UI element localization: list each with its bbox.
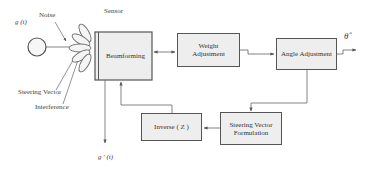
- beamforming-label: Beamforming: [106, 52, 145, 60]
- weight-adjustment-block: Weight Adjustment: [177, 33, 240, 67]
- angle-adjustment-block: Angle Adjustment: [276, 38, 337, 70]
- noise-arrow: [55, 22, 66, 41]
- angle-adjustment-label: Angle Adjustment: [281, 50, 332, 58]
- beam-pattern-lobes: [69, 22, 93, 73]
- angle-to-steering-arrow: [251, 70, 307, 111]
- noise-label: Noise: [39, 11, 55, 19]
- inverse-z-block: Inverse ( Z ): [141, 113, 202, 141]
- weight-adjustment-label-line2: Adjustment: [192, 50, 225, 58]
- steering-vector-formulation-block: Steering Vector Formulation: [220, 112, 282, 145]
- inverse-z-label: Inverse ( Z ): [154, 123, 189, 131]
- steering-formulation-label-line2: Formulation: [234, 129, 269, 137]
- weight-to-angle-arrow: [240, 50, 274, 54]
- sensor-label: Sensor: [104, 7, 123, 15]
- diagram-canvas: [0, 0, 373, 172]
- output-signal-label: g ′ (t): [98, 153, 113, 161]
- angle-estimate-label: θ̂: [344, 31, 348, 41]
- angle-output-arrow: [337, 50, 356, 54]
- weight-adjustment-label-line1: Weight: [198, 42, 218, 50]
- steering-formulation-label-line1: Steering Vector: [229, 121, 272, 129]
- interference-label: Interference: [35, 103, 69, 111]
- inverse-to-beamforming-arrow: [121, 82, 172, 113]
- steering-vector-label: Steering Vector: [18, 88, 61, 96]
- signal-source-circle: [28, 38, 46, 56]
- beamforming-block: Beamforming: [99, 32, 152, 80]
- interference-pointer: [63, 60, 78, 104]
- source-signal-label: g (t): [15, 18, 27, 26]
